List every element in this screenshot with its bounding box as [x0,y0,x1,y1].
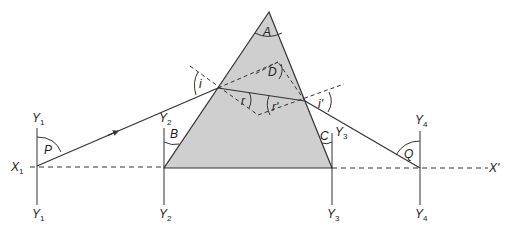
arc-i-prime [328,92,331,112]
label-angle-C: C [320,129,329,143]
arc-i [194,72,198,95]
label-y3-top: Y3 [335,125,348,141]
label-angle-P: P [44,143,52,157]
label-y2-top: Y2 [159,111,172,127]
label-angle-r-prime: r' [272,100,279,114]
label-y1-top: Y1 [32,111,45,127]
label-y2-bottom: Y2 [159,207,172,223]
arc-B [164,142,179,145]
label-angle-i: i [199,77,202,91]
label-y4-top: Y4 [415,113,428,129]
label-angle-Q: Q [404,147,413,161]
label-y3-bottom: Y3 [327,207,340,223]
label-y4-bottom: Y4 [415,207,428,223]
prism [164,12,332,168]
label-angle-i-prime: i' [318,97,324,111]
label-angle-A: A [262,25,271,39]
label-angle-D: D [268,65,277,79]
incident-ray-arrow [108,131,118,135]
prism-refraction-diagram: A D i r r' i' P B C Q X1 X' Y1 Y1 Y2 Y2 … [0,0,506,235]
label-x-prime: X' [488,161,500,175]
label-angle-B: B [170,127,178,141]
label-y1-bottom: Y1 [32,207,45,223]
label-x1: X1 [10,160,24,176]
